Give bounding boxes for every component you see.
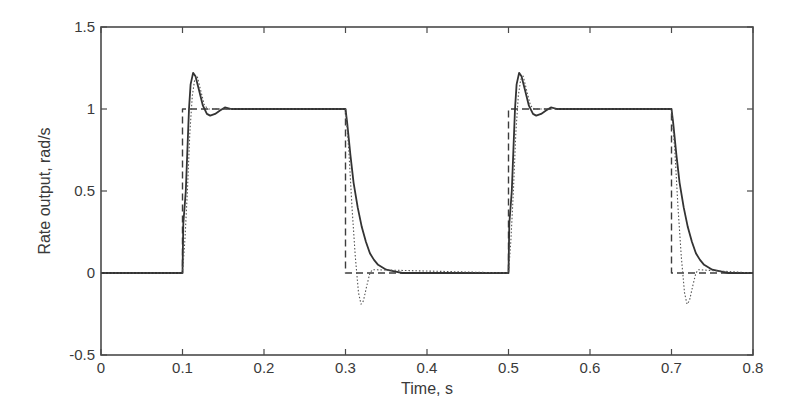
y-tick-label: -0.5 — [69, 346, 95, 363]
y-tick-label: 0 — [87, 264, 95, 281]
x-tick-label: 0.2 — [254, 359, 275, 376]
x-tick-label: 0.8 — [743, 359, 764, 376]
x-tick-label: 0.6 — [580, 359, 601, 376]
chart: 00.10.20.30.40.50.60.70.8 -0.500.511.5 T… — [0, 0, 800, 417]
x-tick-label: 0.5 — [498, 359, 519, 376]
x-tick-label: 0.1 — [172, 359, 193, 376]
x-tick-label: 0.4 — [417, 359, 438, 376]
y-tick-label: 1.5 — [74, 18, 95, 35]
x-axis-label: Time, s — [401, 380, 453, 397]
y-tick-label: 1 — [87, 100, 95, 117]
x-tick-label: 0.3 — [335, 359, 356, 376]
y-tick-label: 0.5 — [74, 182, 95, 199]
y-axis-label: Rate output, rad/s — [36, 127, 53, 254]
x-tick-label: 0 — [97, 359, 105, 376]
plot-area — [101, 27, 753, 355]
x-tick-label: 0.7 — [661, 359, 682, 376]
